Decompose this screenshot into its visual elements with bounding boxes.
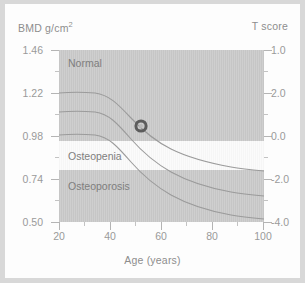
- band-label-osteopenia: Osteopenia: [68, 150, 122, 162]
- tick-mark-left-minor-1: [55, 114, 59, 115]
- tick-mark-left-4: [51, 222, 59, 223]
- tick-mark-right-minor-1: [264, 114, 268, 115]
- y-tick-right-1: 2.0: [271, 87, 300, 99]
- x-tick-0: 20: [39, 230, 79, 242]
- tick-mark-right-minor-0: [264, 71, 268, 72]
- tick-mark-left-3: [51, 179, 59, 180]
- chart-screenshot: BMD g/cm2 T score Age (years): [0, 0, 305, 283]
- superscript-two: 2: [69, 20, 73, 29]
- marker-center: [139, 124, 143, 128]
- x-tick-4: 100: [243, 230, 283, 242]
- tick-mark-right-minor-2: [264, 157, 268, 158]
- chart-card: BMD g/cm2 T score Age (years): [5, 4, 300, 278]
- x-tick-1: 40: [90, 230, 130, 242]
- tick-mark-left-minor-2: [55, 157, 59, 158]
- x-tick-3: 80: [192, 230, 232, 242]
- y-tick-left-1: 1.22: [5, 87, 43, 99]
- y-tick-left-0: 1.46: [5, 44, 43, 56]
- tick-mark-x-2: [161, 222, 162, 230]
- y-tick-right-4: -4.0: [271, 216, 300, 228]
- band-label-normal: Normal: [68, 57, 102, 69]
- tick-mark-x-minor-0: [84, 222, 85, 226]
- tick-mark-left-0: [51, 50, 59, 51]
- tick-mark-x-4: [263, 222, 264, 230]
- band-osteoporosis: [59, 170, 264, 222]
- tick-mark-left-1: [51, 93, 59, 94]
- x-axis-title-text: Age (years): [124, 254, 180, 266]
- x-tick-2: 60: [141, 230, 181, 242]
- plot-area: Normal Osteopenia Osteoporosis: [59, 50, 264, 222]
- y-tick-right-3: -2.0: [271, 173, 300, 185]
- y-tick-right-2: 0.0: [271, 130, 300, 142]
- band-label-osteoporosis: Osteoporosis: [68, 180, 130, 192]
- y-tick-left-3: 0.74: [5, 173, 43, 185]
- tick-mark-left-minor-0: [55, 71, 59, 72]
- tick-mark-x-minor-3: [237, 222, 238, 226]
- x-axis-title: Age (years): [5, 254, 300, 266]
- tick-mark-left-minor-3: [55, 200, 59, 201]
- y-axis-left-title: BMD g/cm2: [18, 20, 73, 34]
- tick-mark-x-0: [59, 222, 60, 230]
- tick-mark-left-2: [51, 136, 59, 137]
- tick-mark-x-minor-2: [186, 222, 187, 226]
- y-tick-left-2: 0.98: [5, 130, 43, 142]
- plot-svg: Normal Osteopenia Osteoporosis: [59, 50, 264, 222]
- tick-mark-right-minor-3: [264, 200, 268, 201]
- tick-mark-x-1: [110, 222, 111, 230]
- y-tick-left-4: 0.50: [5, 216, 43, 228]
- y-tick-right-0: 1.0: [271, 44, 300, 56]
- tick-mark-x-3: [212, 222, 213, 230]
- tick-mark-x-minor-1: [135, 222, 136, 226]
- y-axis-right-title: T score: [252, 20, 288, 32]
